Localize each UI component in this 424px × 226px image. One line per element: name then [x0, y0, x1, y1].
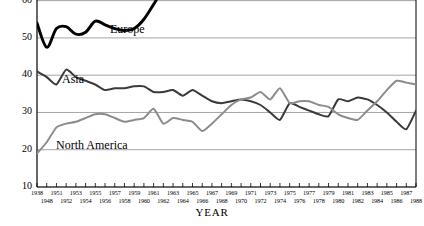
chart-container: Intra-Regional Exports/ Total Exports 10… — [0, 0, 424, 226]
y-tick-label: 50 — [10, 31, 32, 42]
y-tick-label: 20 — [10, 143, 32, 154]
x-axis-title: YEAR — [0, 206, 424, 218]
y-tick-label: 40 — [10, 68, 32, 79]
series-line-asia — [37, 70, 416, 130]
x-tick-label: 1988 — [405, 197, 424, 204]
y-tick-label: 60 — [10, 0, 32, 5]
series-label-asia: Asia — [62, 72, 84, 87]
x-tick-label: 1987 — [395, 189, 417, 196]
series-line-europe — [37, 0, 416, 47]
series-label-europe: Europe — [110, 22, 145, 37]
y-tick-label: 30 — [10, 105, 32, 116]
series-label-north-america: North America — [56, 138, 128, 153]
